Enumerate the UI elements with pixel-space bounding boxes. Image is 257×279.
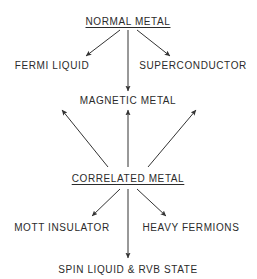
arrow-normal-to-fermi (86, 30, 120, 56)
arrow-normal-to-superconductor (137, 30, 170, 56)
arrow-correlated-to-mott (92, 189, 120, 216)
node-label-normal-metal: NORMAL METAL (86, 16, 171, 28)
arrow-correlated-to-magnetic-left (62, 110, 108, 167)
node-label-spin-liquid-rvb: SPIN LIQUID & RVB STATE (58, 264, 197, 276)
node-label-superconductor: SUPERCONDUCTOR (139, 60, 247, 72)
node-label-fermi-liquid: FERMI LIQUID (15, 60, 89, 72)
node-label-magnetic-metal: MAGNETIC METAL (80, 95, 177, 107)
arrow-correlated-to-heavy (137, 189, 166, 216)
arrow-correlated-to-magnetic-right (148, 110, 196, 167)
node-label-correlated-metal: CORRELATED METAL (72, 173, 185, 185)
diagram-canvas (0, 0, 257, 279)
node-label-heavy-fermions: HEAVY FERMIONS (143, 222, 240, 234)
node-label-mott-insulator: MOTT INSULATOR (14, 222, 110, 234)
